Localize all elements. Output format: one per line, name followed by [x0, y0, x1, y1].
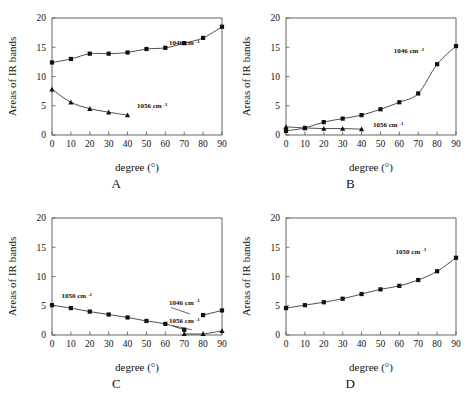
x-tick-label: 90	[217, 339, 227, 349]
x-tick-label: 30	[338, 139, 348, 149]
x-tick-label: 20	[319, 339, 329, 349]
y-tick-label: 15	[271, 243, 281, 253]
x-tick-label: 40	[357, 139, 367, 149]
series-line-1056-cm-1	[52, 89, 128, 115]
data-point	[454, 256, 458, 260]
data-point	[435, 62, 439, 66]
data-point	[107, 52, 111, 56]
series-line-1046-cm-1	[286, 46, 456, 131]
x-tick-label: 30	[104, 139, 114, 149]
data-point	[416, 278, 420, 282]
x-tick-label: 40	[123, 139, 133, 149]
panel-b-letter: B	[234, 176, 467, 192]
data-point	[144, 319, 148, 323]
x-tick-label: 60	[395, 139, 405, 149]
data-point	[341, 117, 345, 121]
panel-d: 010203040506070809005101520degree (°)Are…	[234, 200, 467, 400]
data-point	[49, 87, 54, 92]
x-tick-label: 90	[451, 139, 461, 149]
y-axis-title: Areas of IR bands	[6, 37, 18, 117]
x-tick-label: 20	[85, 139, 95, 149]
data-point	[68, 100, 73, 105]
x-tick-label: 20	[319, 139, 329, 149]
series-line-1046-cm-1	[52, 27, 222, 63]
panel-a-letter: A	[0, 176, 233, 192]
y-tick-label: 15	[37, 43, 47, 53]
x-tick-label: 10	[300, 139, 310, 149]
panel-d-letter: D	[234, 376, 467, 392]
series-annotation: 1056 cm -1	[169, 317, 200, 325]
annotation-leader	[171, 308, 190, 314]
y-tick-label: 0	[41, 330, 46, 340]
data-point	[50, 303, 54, 307]
panel-d-plot: 010203040506070809005101520degree (°)Are…	[234, 200, 467, 378]
x-tick-label: 50	[142, 139, 152, 149]
x-tick-label: 0	[284, 339, 289, 349]
x-tick-label: 60	[161, 139, 171, 149]
x-tick-label: 50	[376, 339, 386, 349]
y-tick-label: 5	[41, 101, 46, 111]
y-tick-label: 15	[37, 243, 47, 253]
x-tick-label: 80	[432, 339, 442, 349]
y-tick-label: 20	[271, 213, 281, 223]
y-tick-label: 20	[37, 213, 47, 223]
x-tick-label: 0	[284, 139, 289, 149]
series-line-1046-cm-1	[203, 310, 222, 315]
x-tick-label: 10	[66, 339, 76, 349]
panel-c-letter: C	[0, 376, 233, 392]
x-tick-label: 60	[395, 339, 405, 349]
data-point	[220, 25, 224, 29]
data-point	[322, 120, 326, 124]
x-tick-label: 60	[161, 339, 171, 349]
data-point	[144, 47, 148, 51]
x-tick-label: 30	[104, 339, 114, 349]
x-tick-label: 70	[179, 339, 189, 349]
x-tick-label: 0	[50, 339, 55, 349]
series-annotation: 1046 cm -1	[394, 47, 425, 55]
panel-b: 010203040506070809005101520degree (°)Are…	[234, 0, 467, 200]
data-point	[125, 315, 129, 319]
y-tick-label: 5	[275, 101, 280, 111]
data-point	[125, 50, 129, 54]
x-tick-label: 50	[142, 339, 152, 349]
x-tick-label: 40	[357, 339, 367, 349]
x-tick-label: 10	[300, 339, 310, 349]
series-annotation: 1046 cm -1	[169, 39, 200, 47]
panel-a-plot: 010203040506070809005101520degree (°)Are…	[0, 0, 233, 178]
series-annotation: 1056 cm -1	[137, 102, 168, 110]
panel-c-plot: 010203040506070809005101520degree (°)Are…	[0, 200, 233, 378]
y-tick-label: 0	[41, 130, 46, 140]
data-point	[359, 292, 363, 296]
series-annotation: 1050 cm -1	[396, 247, 427, 255]
data-point	[220, 308, 224, 312]
x-tick-label: 80	[198, 339, 208, 349]
x-tick-label: 70	[413, 339, 423, 349]
plot-frame	[286, 218, 456, 335]
y-tick-label: 5	[275, 301, 280, 311]
data-point	[284, 306, 288, 310]
data-point	[416, 91, 420, 95]
x-tick-label: 0	[50, 139, 55, 149]
data-point	[88, 310, 92, 314]
data-point	[284, 129, 288, 133]
y-axis-title: Areas of IR bands	[240, 37, 252, 117]
x-tick-label: 40	[123, 339, 133, 349]
x-axis-title: degree (°)	[349, 361, 393, 374]
data-point	[163, 322, 167, 326]
y-tick-label: 0	[275, 130, 280, 140]
data-point	[107, 312, 111, 316]
y-tick-label: 15	[271, 43, 281, 53]
y-tick-label: 10	[271, 72, 281, 82]
x-tick-label: 90	[217, 139, 227, 149]
plot-frame	[286, 18, 456, 135]
data-point	[88, 52, 92, 56]
x-tick-label: 30	[338, 339, 348, 349]
x-tick-label: 70	[413, 139, 423, 149]
y-tick-label: 10	[37, 72, 47, 82]
data-point	[397, 100, 401, 104]
panel-b-plot: 010203040506070809005101520degree (°)Are…	[234, 0, 467, 178]
x-tick-label: 80	[432, 139, 442, 149]
x-axis-title: degree (°)	[115, 361, 159, 374]
x-axis-title: degree (°)	[115, 161, 159, 174]
y-axis-title: Areas of IR bands	[240, 237, 252, 317]
